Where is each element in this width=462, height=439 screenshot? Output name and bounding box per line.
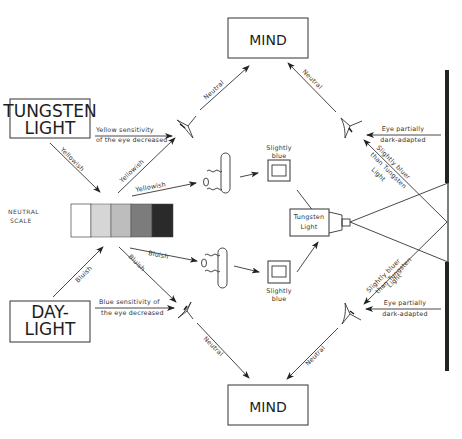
slightly-blue-top-label-2: blue: [272, 152, 287, 160]
daylight-box: DAY- LIGHT: [10, 301, 90, 342]
slide-top-icon: Slightly blue: [266, 144, 291, 181]
scale-swatch-2: [91, 204, 111, 237]
neutral-label-br: Neutral: [304, 344, 327, 367]
eye-dark-top-label-1: Eye partially: [382, 125, 425, 133]
bluish-label-2: Bluish: [127, 253, 147, 273]
eye-dark-bottom-label-2: dark-adapted: [382, 310, 427, 318]
slightly-blue-bottom-label-2: blue: [272, 295, 287, 303]
projector-label-2: Light: [301, 223, 318, 231]
blue-sensitivity-label-2: the eye decreased: [101, 309, 164, 317]
daylight-label-2: LIGHT: [25, 319, 76, 339]
scale-swatch-5: [152, 204, 173, 237]
camera-bottom-icon: [202, 248, 228, 288]
slightly-blue-bottom-label-1: Slightly: [266, 287, 291, 295]
neutral-scale-label-1: NEUTRAL: [8, 208, 39, 215]
neutral-label-bl: Neutral: [202, 335, 225, 358]
neutral-scale: NEUTRAL SCALE: [8, 204, 173, 237]
camera-top-icon: [204, 153, 231, 193]
yellow-sensitivity-label-1: Yellow sensitivity: [95, 126, 154, 134]
tungsten-projector-box: Tungsten Light: [290, 209, 350, 236]
yellow-sensitivity-label-2: of the eye decreased: [96, 136, 168, 144]
yellowish-label-1: Yellowish: [58, 145, 86, 173]
slightly-blue-top-label-1: Slightly: [266, 144, 291, 152]
yellowish-label-2: Yellowish: [117, 158, 146, 185]
eye-top-left-icon: [177, 116, 196, 138]
scale-swatch-1: [71, 204, 91, 237]
scale-swatch-3: [111, 204, 131, 237]
eye-top-right-icon: [341, 118, 362, 138]
eye-bottom-left-icon: [178, 302, 193, 319]
mind-bottom-box: MIND: [228, 385, 308, 425]
scale-swatch-4: [131, 204, 152, 237]
mind-top-box: MIND: [228, 18, 308, 58]
eye-dark-top-label-2: dark-adapted: [380, 136, 425, 144]
eye-dark-bottom-label-1: Eye partially: [384, 299, 427, 307]
slide-bottom-icon: Slightly blue: [266, 261, 291, 303]
eye-bottom-right-icon: [342, 303, 361, 324]
mind-bottom-label: MIND: [249, 399, 286, 415]
tungsten-light-label-2: LIGHT: [25, 118, 76, 138]
bluish-label-3: Bluish: [148, 249, 170, 261]
mind-top-label: MIND: [249, 32, 286, 48]
blue-sensitivity-label-1: Blue sensitivity of: [99, 298, 160, 306]
projector-label-1: Tungsten: [293, 213, 325, 221]
tungsten-light-box: TUNGSTEN LIGHT: [2, 99, 96, 138]
bluish-label-1: Bluish: [74, 264, 94, 284]
neutral-scale-label-2: SCALE: [10, 217, 32, 224]
color-adaptation-diagram: MIND MIND TUNGSTEN LIGHT DAY- LIGHT NEUT…: [0, 0, 462, 439]
